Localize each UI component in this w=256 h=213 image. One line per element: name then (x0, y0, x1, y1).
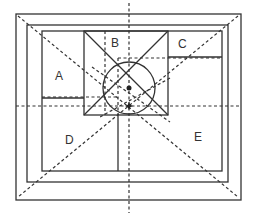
region-label-a: A (55, 69, 63, 83)
region-label-e: E (194, 130, 202, 144)
region-label-b: B (111, 36, 119, 50)
layout-diagram: A B C D E (0, 0, 256, 213)
region-label-c: C (178, 37, 187, 51)
upper-dot-marker (127, 86, 132, 91)
lower-star-marker (125, 102, 133, 110)
region-label-d: D (65, 133, 74, 147)
